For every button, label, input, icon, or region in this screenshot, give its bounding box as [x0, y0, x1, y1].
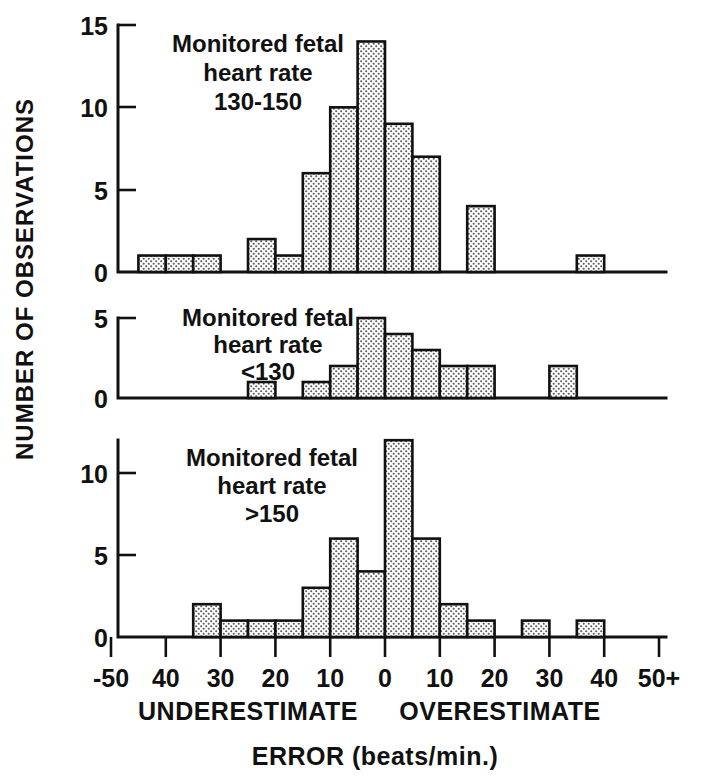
panel3-annotation: Monitored fetal heart rate >150: [186, 444, 358, 527]
panel2-ytick-0: 0: [94, 385, 108, 413]
panel1-ytick-10: 10: [80, 94, 108, 122]
histogram-bar: [330, 539, 357, 637]
x-tick-label: -50: [93, 664, 129, 692]
underestimate-label: UNDERESTIMATE: [138, 697, 358, 725]
histogram-figure: NUMBER OF OBSERVATIONS 15 10 5 0 Monitor…: [0, 0, 708, 779]
histogram-bar: [467, 206, 494, 272]
x-tick-label: 10: [316, 664, 344, 692]
x-axis-title: ERROR (beats/min.): [252, 742, 499, 770]
histogram-bar: [248, 621, 275, 637]
panel1-annotation: Monitored fetal heart rate 130-150: [172, 30, 344, 115]
panel3-ytick-10: 10: [80, 460, 108, 488]
panel1-note-line2: heart rate: [203, 59, 312, 86]
histogram-bar: [358, 571, 385, 637]
histogram-bar: [248, 382, 275, 398]
x-tick-label: 10: [426, 664, 454, 692]
panel3-ytick-0: 0: [94, 624, 108, 652]
x-tick-label: 40: [152, 664, 180, 692]
panel1-ytick-15: 15: [80, 12, 108, 40]
panel1-y-tick-labels: 15 10 5 0: [80, 12, 108, 287]
panel2-ytick-5: 5: [94, 305, 108, 333]
histogram-bar: [412, 157, 439, 272]
histogram-bar: [412, 539, 439, 637]
y-axis-title-text: NUMBER OF OBSERVATIONS: [11, 98, 38, 460]
histogram-bar: [549, 366, 576, 398]
panel3-y-tick-labels: 10 5 0: [80, 460, 108, 652]
chart-svg: NUMBER OF OBSERVATIONS 15 10 5 0 Monitor…: [0, 0, 708, 779]
panel2-note-line2: heart rate: [213, 331, 322, 358]
x-axis: -504030201001020304050+ UNDERESTIMATE OV…: [93, 637, 680, 770]
histogram-bar: [275, 621, 302, 637]
histogram-bar: [303, 173, 330, 272]
panel3-note-line2: heart rate: [217, 472, 326, 499]
panel3-ytick-5: 5: [94, 542, 108, 570]
panel-gt-150: 10 5 0 Monitored fetal heart rate >150: [80, 440, 666, 652]
histogram-bar: [577, 256, 604, 272]
panel2-annotation: Monitored fetal heart rate <130: [182, 304, 354, 385]
histogram-bar: [440, 604, 467, 637]
x-tick-label: 0: [378, 664, 392, 692]
histogram-bar: [275, 256, 302, 272]
histogram-bar: [385, 440, 412, 637]
histogram-bar: [358, 41, 385, 272]
x-tick-label: 30: [207, 664, 235, 692]
x-tick-label: 20: [481, 664, 509, 692]
panel2-note-line1: Monitored fetal: [182, 304, 354, 331]
x-axis-ticks: [111, 637, 659, 657]
x-tick-label: 20: [261, 664, 289, 692]
histogram-bar: [303, 588, 330, 637]
histogram-bar: [358, 318, 385, 398]
panel-130-150: 15 10 5 0 Monitored fetal heart rate 130…: [80, 12, 666, 287]
histogram-bar: [467, 366, 494, 398]
panel3-note-line1: Monitored fetal: [186, 444, 358, 471]
histogram-bar: [248, 239, 275, 272]
y-axis-title: NUMBER OF OBSERVATIONS: [11, 98, 38, 460]
x-tick-label: 40: [590, 664, 618, 692]
histogram-bar: [221, 621, 248, 637]
histogram-bar: [330, 107, 357, 272]
panel1-note-line1: Monitored fetal: [172, 30, 344, 57]
histogram-bar: [385, 124, 412, 272]
histogram-bar: [193, 604, 220, 637]
overestimate-label: OVERESTIMATE: [399, 697, 600, 725]
panel3-y-ticks: [118, 473, 136, 555]
histogram-bar: [467, 621, 494, 637]
panel1-ytick-5: 5: [94, 177, 108, 205]
panel1-ytick-0: 0: [94, 259, 108, 287]
histogram-bar: [303, 382, 330, 398]
histogram-bar: [385, 334, 412, 398]
x-axis-tick-labels: -504030201001020304050+: [93, 664, 680, 692]
panel3-note-line3: >150: [245, 500, 299, 527]
x-tick-label: 30: [535, 664, 563, 692]
panel-lt-130: 5 0 Monitored fetal heart rate <130: [94, 304, 666, 413]
histogram-bar: [412, 350, 439, 398]
histogram-bar: [138, 256, 165, 272]
histogram-bar: [166, 256, 193, 272]
histogram-bar: [522, 621, 549, 637]
panel1-note-line3: 130-150: [214, 88, 302, 115]
histogram-bar: [193, 256, 220, 272]
panel2-y-tick-labels: 5 0: [94, 305, 108, 413]
x-tick-label: 50+: [638, 664, 680, 692]
panel1-y-ticks: [118, 25, 136, 190]
histogram-bar: [577, 621, 604, 637]
histogram-bar: [440, 366, 467, 398]
histogram-bar: [330, 366, 357, 398]
